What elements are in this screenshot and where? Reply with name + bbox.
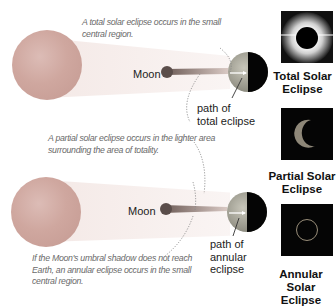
note-total-eclipse: A total solar eclipse occurs in the smal… (82, 16, 257, 39)
annular-eclipse-caption: Annular Solar Eclipse (266, 268, 336, 307)
sun-top (12, 30, 82, 100)
annular-eclipse-photo-icon (281, 204, 333, 256)
moon-label-top: Moon (133, 68, 161, 80)
moon-label-bottom: Moon (128, 205, 156, 217)
sun-bottom (11, 177, 81, 247)
total-eclipse-caption: Total Solar Eclipse (270, 70, 335, 96)
note-partial-eclipse: A partial solar eclipse occurs in the li… (48, 132, 232, 155)
note-annular-eclipse: If the Moon's umbral shadow does not rea… (32, 252, 216, 287)
total-eclipse-photo-icon (281, 11, 333, 63)
partial-eclipse-photo-icon (281, 108, 333, 160)
partial-eclipse-caption: Partial Solar Eclipse (268, 170, 336, 196)
